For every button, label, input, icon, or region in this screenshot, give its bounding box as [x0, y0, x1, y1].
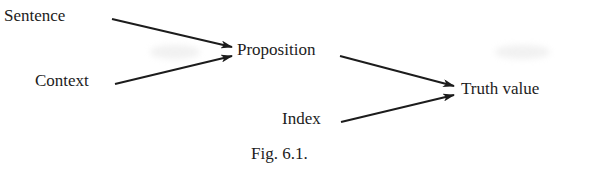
arrow-proposition-to-truth-value [340, 56, 454, 86]
node-truth-value: Truth value [461, 79, 539, 99]
node-index: Index [282, 109, 321, 129]
figure-caption: Fig. 6.1. [251, 144, 308, 164]
node-context: Context [35, 71, 89, 91]
arrow-context-to-proposition [115, 56, 232, 84]
node-proposition: Proposition [237, 40, 315, 60]
arrow-index-to-truth-value [341, 95, 454, 122]
arrow-sentence-to-proposition [112, 19, 232, 47]
node-sentence: Sentence [4, 6, 65, 26]
